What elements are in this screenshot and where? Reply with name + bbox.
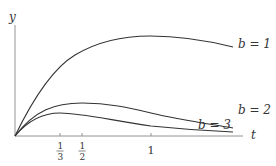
- legend-b3: b = 3: [198, 118, 231, 132]
- tick-label-half-num: 1: [80, 141, 86, 151]
- x-axis-label: t: [251, 128, 256, 142]
- tick-label-one: 1: [148, 144, 155, 157]
- tick-label-third-den: 3: [58, 152, 64, 162]
- legend-b1: b = 1: [238, 37, 271, 51]
- chart: y t 1 3 1 2 1 b = 1 b = 2 b = 3: [0, 0, 276, 166]
- tick-label-half-den: 2: [80, 152, 86, 162]
- tick-label-third-num: 1: [58, 141, 64, 151]
- y-axis-label: y: [8, 10, 16, 24]
- legend-b2: b = 2: [238, 103, 271, 117]
